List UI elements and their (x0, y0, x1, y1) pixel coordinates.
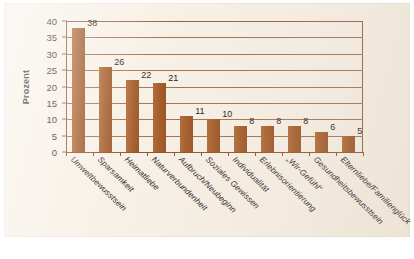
y-axis-tick-mark (62, 21, 67, 22)
y-axis-tick-label: 20 (4, 81, 57, 92)
y-axis-tick-label: 30 (4, 48, 57, 59)
chart-paper-panel: Prozent 0510152025303540 382622211110888… (4, 3, 410, 237)
bar (180, 116, 194, 152)
y-axis-tick-mark (62, 53, 67, 54)
x-axis-tick-mark (120, 152, 121, 156)
bar (234, 126, 248, 152)
bar (288, 126, 302, 152)
y-axis-tick-label: 25 (4, 65, 57, 76)
x-axis-tick-mark (201, 152, 202, 156)
bar (153, 83, 167, 152)
y-axis-tick-label: 0 (4, 147, 57, 158)
bar-value-label: 11 (195, 106, 204, 116)
y-axis-tick-label: 35 (4, 32, 57, 43)
x-axis-tick-mark (228, 152, 229, 156)
bar-value-label: 8 (249, 116, 254, 126)
y-axis-tick-mark (62, 135, 67, 136)
x-axis-tick-mark (93, 152, 94, 156)
bar-value-label: 10 (222, 109, 232, 119)
x-axis-tick-mark (66, 152, 67, 156)
bar-value-label: 8 (276, 116, 281, 126)
bar-value-label: 21 (168, 73, 178, 83)
y-axis-tick-mark (62, 102, 67, 103)
x-axis-tick-mark (174, 152, 175, 156)
bar-value-label: 22 (141, 70, 151, 80)
bar (72, 28, 86, 152)
bar (207, 119, 221, 152)
x-axis-tick-mark (363, 152, 364, 156)
y-axis-tick-label: 40 (4, 16, 57, 27)
y-axis-tick-label: 15 (4, 97, 57, 108)
bar-value-label: 38 (87, 18, 97, 28)
bar-value-label: 26 (114, 57, 124, 67)
x-axis-tick-mark (282, 152, 283, 156)
gridline (66, 54, 363, 55)
y-axis-tick-label: 10 (4, 114, 57, 125)
bar-value-label: 6 (330, 122, 335, 132)
bar (315, 132, 329, 152)
x-axis-line (66, 152, 364, 153)
gridline (66, 37, 363, 38)
y-axis-tick-mark (62, 86, 67, 87)
x-axis-tick-mark (336, 152, 337, 156)
bar (99, 67, 113, 152)
bar-value-label: 8 (303, 116, 308, 126)
bar (342, 136, 356, 152)
x-axis-tick-mark (147, 152, 148, 156)
bar (261, 126, 275, 152)
x-axis-tick-mark (255, 152, 256, 156)
x-axis-tick-mark (309, 152, 310, 156)
bar (126, 80, 140, 152)
chart-page: Prozent 0510152025303540 382622211110888… (0, 0, 414, 259)
y-axis-tick-mark (62, 37, 67, 38)
bar-value-label: 5 (357, 126, 362, 136)
y-axis-tick-label: 5 (4, 130, 57, 141)
y-axis-tick-mark (62, 70, 67, 71)
y-axis-tick-mark (62, 119, 67, 120)
